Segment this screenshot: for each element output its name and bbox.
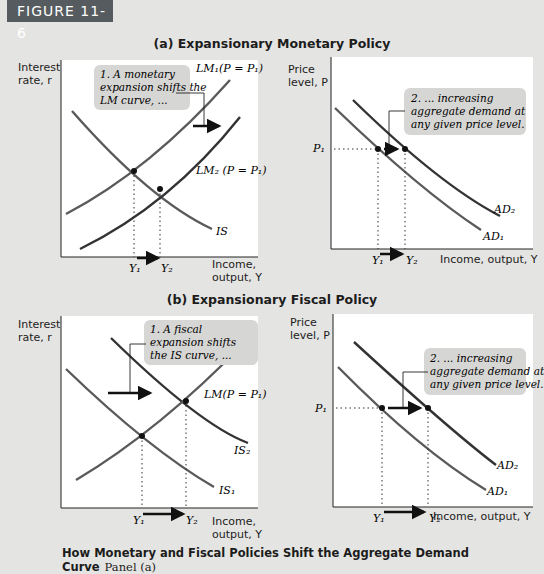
svg-text:LM₂ (P = P₁): LM₂ (P = P₁) [195,164,266,177]
svg-text:LM(P = P₁): LM(P = P₁) [203,388,267,401]
svg-text:aggregate demand at: aggregate demand at [430,365,544,377]
svg-text:AD₂: AD₂ [493,203,515,216]
svg-text:Y₂: Y₂ [186,514,198,527]
svg-text:LM₁(P = P₁): LM₁(P = P₁) [195,62,263,75]
svg-text:1. A fiscal: 1. A fiscal [150,323,202,335]
svg-text:AD₁: AD₁ [482,230,504,243]
svg-text:expansion shifts the: expansion shifts the [100,81,207,93]
svg-text:expansion shifts: expansion shifts [150,336,237,348]
svg-text:Y₂: Y₂ [429,512,441,525]
svg-text:IS₁: IS₁ [218,484,235,497]
svg-text:2. ... increasing: 2. ... increasing [429,352,513,364]
figure-caption: How Monetary and Fiscal Policies Shift t… [62,546,544,574]
a-islm-plot: 1. A monetary expansion shifts the LM cu… [61,60,266,275]
a-ad-plot: 2. ... increasing aggregate demand at an… [312,57,533,267]
svg-text:P₁: P₁ [312,142,325,155]
svg-text:LM curve, ...: LM curve, ... [99,94,168,106]
svg-text:aggregate demand at: aggregate demand at [411,105,526,117]
svg-text:Y₁: Y₁ [129,262,141,275]
svg-text:Y₁: Y₁ [372,254,384,267]
svg-text:the IS curve, ...: the IS curve, ... [150,349,232,361]
svg-text:any given price level.: any given price level. [411,118,525,130]
svg-text:Y₁: Y₁ [373,512,385,525]
svg-text:any given price level.: any given price level. [430,378,544,390]
svg-text:IS: IS [215,225,228,238]
svg-text:AD₂: AD₂ [496,459,518,472]
svg-text:AD₁: AD₁ [486,485,508,498]
svg-text:2. ... increasing: 2. ... increasing [410,92,494,104]
svg-text:Y₂: Y₂ [406,254,418,267]
svg-text:P₁: P₁ [314,402,327,415]
b-islm-plot: 1. A fiscal expansion shifts the IS curv… [61,316,267,527]
svg-text:Y₂: Y₂ [161,262,173,275]
svg-text:1. A monetary: 1. A monetary [100,68,176,80]
b-ad-plot: 2. ... increasing aggregate demand at an… [314,314,544,525]
svg-text:IS₂: IS₂ [233,444,250,457]
svg-text:Y₁: Y₁ [133,514,145,527]
